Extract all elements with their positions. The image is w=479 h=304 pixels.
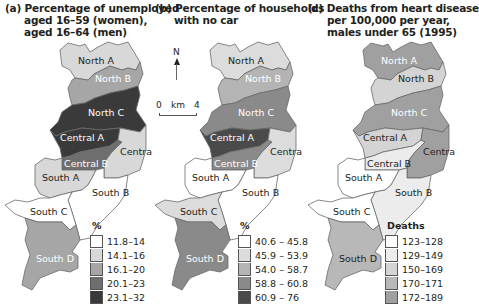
panel-a-unemployment: (a) Percentage of unemployed aged 16–59 … [0, 0, 152, 294]
legend-a: %11.8–1414.1–1616.1–2020.1–2323.1–32 [90, 220, 145, 304]
scale-bar-line [159, 113, 197, 116]
legend-b: %40.6 – 45.845.9 – 53.954.0 – 58.758.8 –… [238, 220, 308, 304]
legend-swatch [385, 249, 398, 262]
legend-label: 58.8 – 60.8 [255, 278, 308, 289]
region-label-south-c: South C [333, 206, 371, 217]
legend-swatch [90, 249, 103, 262]
legend-label: 129–149 [402, 250, 443, 261]
legend-swatch [385, 291, 398, 304]
north-label: N [173, 47, 180, 57]
legend-swatch [90, 291, 103, 304]
legend-swatch [90, 263, 103, 276]
legend-item: 129–149 [385, 248, 443, 262]
region-label-south-c: South C [180, 206, 218, 217]
region-label-north-c: North C [238, 107, 275, 118]
region-label-south-d: South D [186, 253, 224, 264]
region-label-south-a: South A [192, 172, 230, 183]
legend-c: Deaths123–128129–149150–169170–171172–18… [385, 220, 443, 304]
legend-item: 45.9 – 53.9 [238, 248, 308, 262]
legend-swatch [385, 263, 398, 276]
scale-end: 4 [194, 100, 200, 110]
legend-item: 11.8–14 [90, 234, 145, 248]
legend-swatch [385, 235, 398, 248]
region-label-central-b: Central B [214, 158, 258, 169]
legend-label: 40.6 – 45.8 [255, 236, 308, 247]
legend-swatch [238, 249, 251, 262]
region-label-central-b: Central B [64, 158, 108, 169]
legend-heading: % [92, 220, 145, 231]
legend-heading: % [240, 220, 308, 231]
legend-item: 60.9 – 76 [238, 290, 308, 304]
legend-item: 172–189 [385, 290, 443, 304]
scale-unit: km [171, 100, 185, 110]
region-label-north-a: North A [228, 55, 265, 66]
region-label-north-c: North C [88, 107, 125, 118]
legend-swatch [238, 263, 251, 276]
region-label-south-d: South D [339, 253, 377, 264]
legend-heading: Deaths [387, 220, 443, 231]
legend-swatch [238, 291, 251, 304]
region-label-south-b: South B [242, 187, 279, 198]
legend-swatch [90, 235, 103, 248]
region-label-south-a: South A [345, 172, 383, 183]
region-label-central-b: Central B [367, 158, 411, 169]
region-label-north-b: North B [398, 73, 434, 84]
region-label-central-c: Central C [120, 146, 152, 157]
legend-label: 60.9 – 76 [255, 292, 299, 303]
legend-label: 170–171 [402, 278, 443, 289]
north-arrow-icon [174, 58, 180, 65]
legend-label: 16.1–20 [107, 264, 145, 275]
region-label-south-b: South B [92, 187, 129, 198]
legend-label: 123–128 [402, 236, 443, 247]
region-label-north-a: North A [78, 55, 115, 66]
scale-bar: 0 km 4 [155, 100, 205, 120]
region-label-central-a: Central A [210, 132, 255, 143]
legend-item: 54.0 – 58.7 [238, 262, 308, 276]
legend-item: 40.6 – 45.8 [238, 234, 308, 248]
legend-item: 123–128 [385, 234, 443, 248]
region-label-north-b: North B [95, 73, 131, 84]
legend-label: 20.1–23 [107, 278, 145, 289]
region-label-south-a: South A [42, 172, 80, 183]
legend-label: 23.1–32 [107, 292, 145, 303]
legend-label: 54.0 – 58.7 [255, 264, 308, 275]
legend-swatch [90, 277, 103, 290]
legend-item: 20.1–23 [90, 276, 145, 290]
legend-item: 14.1–16 [90, 248, 145, 262]
region-label-central-c: Central C [270, 146, 302, 157]
north-arrow-stem [176, 64, 177, 80]
region-label-north-a: North A [381, 55, 418, 66]
region-label-south-c: South C [30, 206, 68, 217]
region-label-north-b: North B [245, 73, 281, 84]
panel-c-heart-disease: (c) Deaths from heart disease per 100,00… [303, 0, 455, 294]
legend-label: 172–189 [402, 292, 443, 303]
legend-item: 58.8 – 60.8 [238, 276, 308, 290]
region-label-central-c: Central C [423, 146, 455, 157]
region-label-central-a: Central A [60, 132, 105, 143]
scale-start: 0 [156, 100, 162, 110]
legend-swatch [238, 235, 251, 248]
legend-item: 150–169 [385, 262, 443, 276]
legend-label: 11.8–14 [107, 236, 145, 247]
legend-item: 170–171 [385, 276, 443, 290]
legend-swatch [238, 277, 251, 290]
legend-label: 150–169 [402, 264, 443, 275]
legend-label: 45.9 – 53.9 [255, 250, 308, 261]
region-label-south-b: South B [395, 187, 432, 198]
legend-swatch [385, 277, 398, 290]
region-label-central-a: Central A [363, 132, 408, 143]
region-label-south-d: South D [36, 253, 74, 264]
legend-item: 16.1–20 [90, 262, 145, 276]
legend-label: 14.1–16 [107, 250, 145, 261]
region-label-north-c: North C [391, 107, 428, 118]
legend-item: 23.1–32 [90, 290, 145, 304]
